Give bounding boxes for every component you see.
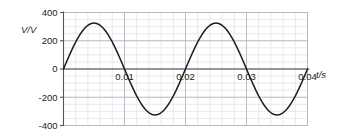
y-axis-title: V/V [21,24,38,35]
y-tick-label: -400 [38,120,57,131]
y-tick-label: -200 [38,92,57,103]
y-tick-label: 200 [42,35,58,46]
x-tick-label: 0.03 [237,71,256,82]
y-tick-label: 0 [52,63,57,74]
x-tick-label: 0.04 [298,71,317,82]
voltage-time-sine-chart: 4002000-200-400 0.010.020.030.04 V/V t/s [0,0,350,139]
chart-figure: 4002000-200-400 0.010.020.030.04 V/V t/s [0,0,350,139]
x-tick-label: 0.01 [115,71,134,82]
x-tick-label: 0.02 [176,71,195,82]
x-axis-title: t/s [316,69,326,80]
y-tick-label: 400 [42,7,58,18]
